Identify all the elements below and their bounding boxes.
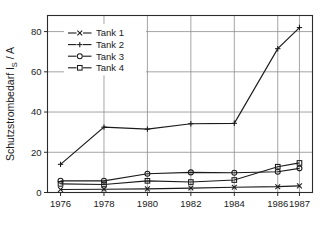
y-axis-title-text: Schutzstrombedarf IS / A	[4, 47, 19, 161]
legend-label: Tank 4	[96, 62, 124, 73]
y-axis-tick-labels: 020406080	[31, 26, 42, 198]
x-tick-label: 1987	[289, 198, 310, 209]
series-line	[61, 168, 300, 180]
series-tank-4	[58, 161, 302, 187]
y-tick-label: 40	[31, 106, 42, 117]
y-axis-title-main: Schutzstrombedarf I	[4, 67, 16, 161]
chart-figure: 020406080 1976197819801982198419861987 S…	[0, 0, 332, 229]
series-line	[61, 186, 300, 190]
x-tick-label: 1978	[93, 198, 114, 209]
x-tick-label: 1980	[137, 198, 158, 209]
legend-label: Tank 3	[96, 51, 124, 62]
x-tick-label: 1984	[224, 198, 245, 209]
line-chart: 020406080 1976197819801982198419861987 S…	[0, 0, 332, 229]
y-tick-label: 20	[31, 147, 42, 158]
chart-legend: Tank 1Tank 2Tank 3Tank 4	[64, 24, 146, 75]
legend-label: Tank 1	[96, 27, 124, 38]
series-tank-3	[58, 166, 302, 183]
x-tick-label: 1986	[267, 198, 288, 209]
x-tick-label: 1976	[50, 198, 71, 209]
x-axis-tick-labels: 1976197819801982198419861987	[50, 198, 310, 209]
legend-label: Tank 2	[96, 39, 124, 50]
y-tick-label: 60	[31, 66, 42, 77]
y-tick-label: 80	[31, 26, 42, 37]
y-axis-title-unit: / A	[4, 47, 16, 62]
x-tick-label: 1982	[180, 198, 201, 209]
y-tick-label: 0	[36, 187, 41, 198]
y-axis-title: Schutzstrombedarf IS / A	[4, 47, 19, 161]
